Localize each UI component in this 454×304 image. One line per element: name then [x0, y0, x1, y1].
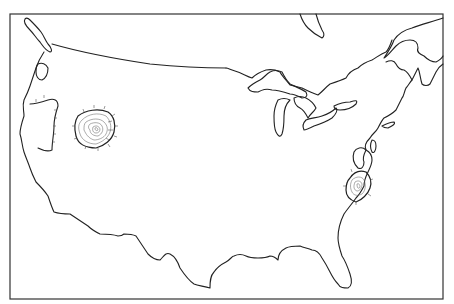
lake-michigan	[274, 99, 290, 137]
western-inland-outline	[30, 99, 58, 151]
northern-border	[52, 44, 226, 68]
lake-huron	[294, 97, 316, 119]
lake-erie	[303, 108, 337, 130]
maritimes-coast	[386, 61, 443, 86]
vancouver-island	[24, 18, 51, 52]
long-island	[382, 122, 395, 128]
us-coastline	[20, 52, 412, 288]
map-canvas	[0, 0, 454, 304]
us-outline-map	[0, 0, 454, 304]
lake-ontario	[334, 101, 357, 110]
eastern-contour-cluster	[343, 169, 373, 205]
delaware-bay	[371, 140, 377, 153]
puget-lake-outline	[36, 63, 48, 80]
chesapeake-bay	[353, 148, 366, 169]
james-bay-tip	[300, 14, 324, 38]
gulf-st-lawrence	[384, 18, 443, 62]
western-contour-cluster	[72, 105, 118, 151]
canada-border-east	[226, 40, 392, 95]
